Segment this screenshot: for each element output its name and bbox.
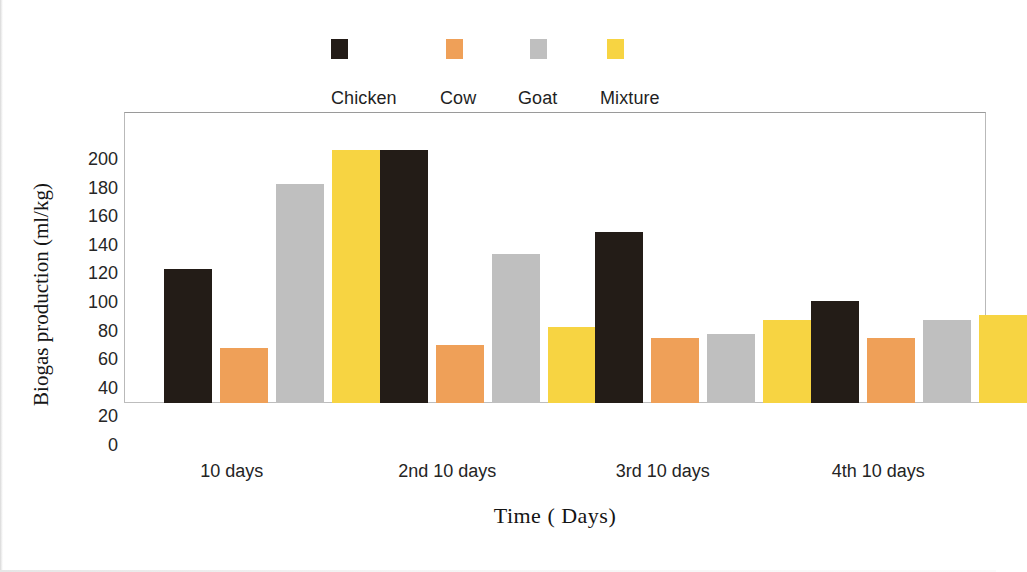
y-tick-label: 180	[40, 179, 118, 197]
chart-legend: Chicken Cow Goat Mixture	[0, 0, 996, 112]
bar-chicken	[380, 150, 428, 403]
bars-layer	[124, 112, 986, 403]
bar-goat	[276, 184, 324, 403]
y-tick-label: 140	[40, 236, 118, 254]
bar-cow	[651, 338, 699, 403]
bar-goat	[707, 334, 755, 403]
x-tick-label: 3rd 10 days	[555, 460, 771, 482]
x-tick-label: 4th 10 days	[771, 460, 987, 482]
bar-chicken	[595, 232, 643, 403]
x-tick-label: 2nd 10 days	[340, 460, 556, 482]
bar-mixture	[332, 150, 380, 403]
legend-label-goat: Goat	[518, 88, 557, 108]
y-tick-label: 200	[40, 150, 118, 168]
legend-swatch-mixture	[607, 39, 624, 59]
bar-mixture	[548, 327, 596, 403]
bar-mixture	[763, 320, 811, 403]
legend-label-cow: Cow	[440, 88, 476, 108]
legend-label-mixture: Mixture	[600, 88, 660, 108]
bar-goat	[492, 254, 540, 403]
bar-cow	[436, 345, 484, 403]
bar-chicken	[164, 269, 212, 403]
x-axis-title: Time ( Days)	[124, 503, 986, 529]
y-tick-label: 40	[40, 379, 118, 397]
legend-swatch-cow	[446, 39, 463, 59]
bar-chicken	[811, 301, 859, 403]
bar-mixture	[979, 315, 1027, 403]
legend-swatch-chicken	[331, 39, 348, 59]
bar-cow	[867, 338, 915, 403]
y-tick-label: 20	[40, 407, 118, 425]
y-tick-label: 0	[40, 436, 118, 454]
legend-swatch-goat	[530, 39, 547, 59]
x-axis-tick-labels: 10 days2nd 10 days3rd 10 days4th 10 days	[124, 460, 986, 490]
y-tick-label: 60	[40, 350, 118, 368]
bar-cow	[220, 348, 268, 403]
x-tick-label: 10 days	[124, 460, 340, 482]
y-tick-label: 80	[40, 322, 118, 340]
bar-goat	[923, 320, 971, 403]
y-tick-label: 100	[40, 293, 118, 311]
y-tick-label: 160	[40, 207, 118, 225]
legend-label-chicken: Chicken	[331, 88, 397, 108]
y-axis-tick-labels: 200180160140120100806040200	[40, 112, 118, 462]
y-tick-label: 120	[40, 264, 118, 282]
